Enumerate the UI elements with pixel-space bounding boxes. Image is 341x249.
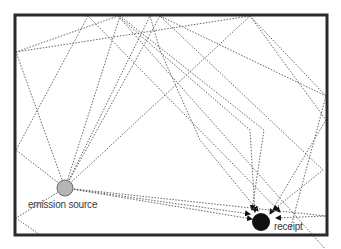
sound-ray xyxy=(65,16,326,214)
sound-ray xyxy=(16,188,65,235)
receiver-icon xyxy=(252,213,270,231)
sound-ray xyxy=(16,16,280,212)
sound-ray xyxy=(160,16,326,96)
sound-ray xyxy=(65,16,258,211)
emission-source-icon xyxy=(57,180,73,196)
sound-ray xyxy=(65,16,323,210)
reflection-diagram xyxy=(0,0,341,249)
receiver-label: receipt xyxy=(274,221,303,232)
sound-ray xyxy=(65,188,326,218)
sound-ray xyxy=(65,16,264,210)
sound-rays xyxy=(16,16,326,249)
emission-source-label: emission source xyxy=(28,199,97,210)
